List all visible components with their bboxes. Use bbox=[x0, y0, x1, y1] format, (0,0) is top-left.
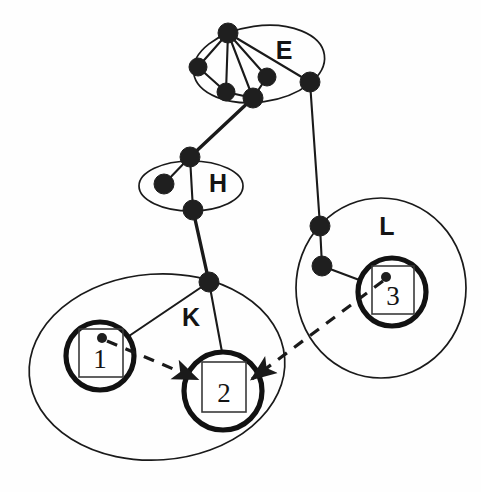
cluster-label-E: E bbox=[276, 36, 293, 64]
node-h2[interactable] bbox=[154, 174, 174, 194]
agent-1[interactable]: 1 bbox=[66, 322, 134, 390]
agent-1-dot-icon bbox=[97, 333, 107, 343]
node-e4[interactable] bbox=[243, 88, 263, 108]
agent-2-label: 2 bbox=[217, 378, 231, 408]
node-e5[interactable] bbox=[258, 68, 276, 86]
message-arrow-3-to-2 bbox=[252, 281, 383, 379]
node-e1[interactable] bbox=[218, 23, 238, 43]
node-h3[interactable] bbox=[183, 200, 203, 220]
graph-node-group bbox=[154, 23, 332, 292]
node-e2[interactable] bbox=[189, 58, 207, 76]
agent-2[interactable]: 2 bbox=[184, 352, 262, 430]
agent-1-label: 1 bbox=[93, 344, 107, 374]
edge-e4-h1 bbox=[190, 98, 253, 157]
diagram-svg: 1 2 3 bbox=[0, 0, 481, 492]
link-k0-agent2 bbox=[209, 282, 222, 352]
agent-3-label: 3 bbox=[386, 281, 400, 311]
node-l1[interactable] bbox=[310, 216, 330, 236]
cluster-link-group bbox=[129, 266, 362, 352]
edge-e6-l1 bbox=[310, 82, 320, 226]
node-e3[interactable] bbox=[217, 83, 235, 101]
agent-3[interactable]: 3 bbox=[358, 258, 426, 326]
cluster-label-H: H bbox=[209, 169, 227, 197]
node-h1[interactable] bbox=[180, 147, 200, 167]
node-e6[interactable] bbox=[300, 72, 320, 92]
cluster-label-K: K bbox=[182, 303, 200, 331]
node-k0[interactable] bbox=[199, 272, 219, 292]
edge-h3-k0 bbox=[193, 210, 209, 282]
cluster-label-L: L bbox=[379, 212, 394, 240]
node-l2[interactable] bbox=[312, 256, 332, 276]
diagram-canvas: 1 2 3 bbox=[0, 0, 481, 492]
